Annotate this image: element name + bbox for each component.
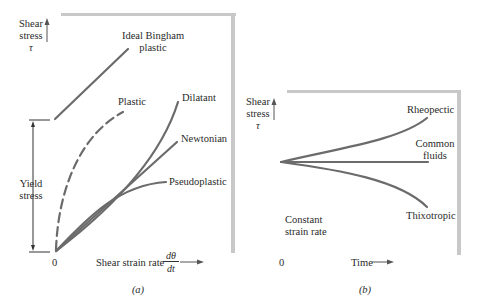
constant-strain-label-line1: Constant [285, 214, 322, 226]
panel-a-curves [55, 49, 178, 251]
rheopectic-curve [281, 118, 427, 162]
dilatant-curve [56, 102, 178, 251]
panel-b-x-arrow-icon [372, 260, 394, 265]
plastic-label: Plastic [118, 96, 146, 108]
panel-a-y-label-line1: Shear [16, 18, 46, 30]
common-fluids-label-line1: Common [410, 138, 460, 150]
panel-a-x-label-frac-den: dt [163, 263, 179, 275]
panel-b-caption: (b) [355, 284, 375, 296]
panel-b-y-label-line1: Shear [243, 96, 273, 108]
bingham-label-line2: plastic [108, 42, 198, 54]
rheopectic-label: Rheopectic [407, 104, 454, 116]
panel-b-curves [281, 118, 428, 207]
pseudoplastic-label: Pseudoplastic [169, 176, 227, 188]
yield-stress-label-line1: Yield [16, 178, 46, 190]
panel-a-x-arrow-icon [180, 260, 204, 265]
bingham-curve [55, 49, 128, 119]
panel-b-y-label-symbol: τ [243, 120, 273, 132]
panel-a-x-label: Shear strain rate [96, 257, 164, 269]
panel-a-y-label-symbol: τ [16, 42, 46, 54]
thixotropic-label: Thixotropic [406, 210, 456, 222]
plastic-curve [56, 112, 123, 250]
diagram-graphics [0, 0, 479, 307]
panel-a-x-label-frac-num: dθ [163, 250, 179, 262]
panel-a-y-label-line2: stress [16, 30, 46, 42]
bingham-label-line1: Ideal Bingham [108, 30, 198, 42]
panel-a-caption: (a) [128, 284, 148, 296]
dilatant-label: Dilatant [182, 92, 216, 104]
panel-b-y-label-line2: stress [243, 108, 273, 120]
panel-b-x-label: Time [351, 257, 373, 269]
panel-a-origin: 0 [52, 257, 57, 269]
panel-b-origin: 0 [279, 257, 284, 269]
pseudoplastic-curve [56, 182, 166, 251]
constant-strain-label-line2: strain rate [285, 226, 327, 238]
yield-stress-label-line2: stress [16, 190, 46, 202]
common-fluids-label-line2: fluids [410, 150, 460, 162]
newtonian-label: Newtonian [181, 133, 227, 145]
thixotropic-curve [281, 162, 427, 207]
